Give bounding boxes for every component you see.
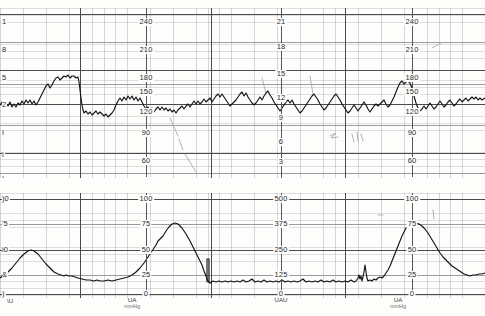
fhr-tick-120-right: 120 xyxy=(404,108,420,116)
fhr-tick-12: 12 xyxy=(275,94,286,102)
ua-clip-tick-5: ) xyxy=(2,290,6,298)
ua-tick-75-left: 75 xyxy=(140,220,151,228)
fhr-tick-240-left: 240 xyxy=(138,18,154,26)
ua-clip-tick-3: i0 xyxy=(2,246,9,254)
fetal-heart-rate-panel: 1 8 5 2 I l ) 240 210 180 150 120 90 60 … xyxy=(0,8,485,178)
fhr-tick-210-right: 210 xyxy=(404,46,420,54)
fhr-clip-tick-4: 2 xyxy=(2,101,7,109)
fhr-tick-120-left: 120 xyxy=(138,108,154,116)
fhr-tick-150-right: 150 xyxy=(404,88,420,96)
fhr-tick-180-right: 180 xyxy=(404,74,420,82)
caption-ua-right: UA mmHg xyxy=(390,296,406,310)
fhr-tick-60-right: 60 xyxy=(406,157,417,165)
fhr-tick-240-right: 240 xyxy=(404,18,420,26)
caption-ua-left-line2: mmHg xyxy=(124,303,140,310)
ua-gridline-v-2 xyxy=(211,193,212,298)
ua-tick-250: 250 xyxy=(273,246,289,254)
ua-tick-100-right: 100 xyxy=(404,195,420,203)
fhr-tick-18: 18 xyxy=(275,43,286,51)
fhr-tick-15: 15 xyxy=(275,70,286,78)
fhr-tick-6: 6 xyxy=(277,138,284,146)
fhr-gridline-v-1 xyxy=(80,8,81,178)
fhr-tick-30-right: 30 xyxy=(406,177,417,178)
fhr-clip-tick-5: I xyxy=(2,129,5,137)
ua-gridline-v-3 xyxy=(345,193,346,298)
fhr-clip-tick-2: 8 xyxy=(2,46,7,54)
ua-tick-50-left: 50 xyxy=(140,246,151,254)
fhr-tick-3: 3 xyxy=(277,158,284,166)
fhr-gridline-v-2 xyxy=(211,8,212,178)
caption-uau-middle: UAU xyxy=(274,296,287,303)
fhr-tick-9: 9 xyxy=(277,114,284,122)
ua-tick-50-right: 50 xyxy=(406,246,417,254)
ua-tick-0-left: 0 xyxy=(142,290,149,298)
caption-left-clipped: \U xyxy=(7,297,13,304)
ua-tick-375: 375 xyxy=(273,220,289,228)
fhr-clip-tick-6: l xyxy=(2,151,5,159)
fhr-tick-90-right: 90 xyxy=(406,129,417,137)
ua-tick-0-right: 0 xyxy=(408,290,415,298)
ua-tick-25-left: 25 xyxy=(140,271,151,279)
ua-tick-25-right: 25 xyxy=(406,271,417,279)
caption-ua-left-line1: UA xyxy=(128,296,137,303)
fhr-clip-tick-1: 1 xyxy=(2,18,7,26)
fhr-clip-tick-7: ) xyxy=(2,175,6,178)
ua-tick-500: 500 xyxy=(273,195,289,203)
fhr-tick-210-left: 210 xyxy=(138,46,154,54)
ua-gridline-v-1 xyxy=(80,193,81,298)
ua-clip-tick-4: & xyxy=(2,271,8,279)
fhr-gridline-v-3 xyxy=(345,8,346,178)
fhr-tick-180-left: 180 xyxy=(138,74,154,82)
caption-left-clipped-line1: \U xyxy=(7,297,13,304)
uterine-activity-panel: )0 '5 i0 & ) 100 75 50 25 0 500 375 250 … xyxy=(0,193,485,298)
fhr-tick-21: 21 xyxy=(275,18,286,26)
fhr-tick-30-left: 30 xyxy=(140,177,151,178)
caption-ua-left: UA mmHg xyxy=(124,296,140,310)
fhr-tick-90-left: 90 xyxy=(140,129,151,137)
caption-ua-right-line1: UA xyxy=(394,296,403,303)
fhr-tick-150-left: 150 xyxy=(138,88,154,96)
fhr-tick-60-left: 60 xyxy=(140,157,151,165)
ua-tick-75-right: 75 xyxy=(406,220,417,228)
ctg-strip-page: 1 8 5 2 I l ) 240 210 180 150 120 90 60 … xyxy=(0,0,485,316)
caption-ua-right-line2: mmHg xyxy=(390,303,406,310)
caption-uau-middle-line1: UAU xyxy=(274,296,287,303)
ua-tick-100-left: 100 xyxy=(138,195,154,203)
ua-clip-tick-2: '5 xyxy=(2,220,9,228)
ua-tick-125: 125 xyxy=(273,271,289,279)
ua-clip-tick-1: )0 xyxy=(2,195,10,203)
fhr-clip-tick-3: 5 xyxy=(2,74,7,82)
